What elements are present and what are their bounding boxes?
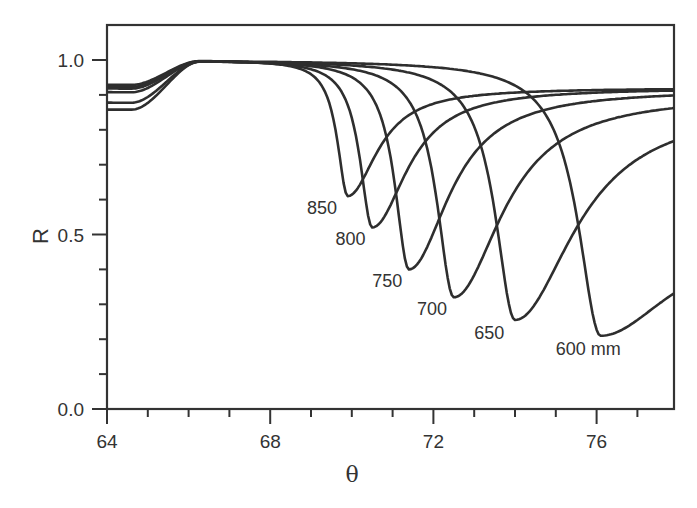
y-axis-title: R	[28, 228, 53, 244]
x-tick-label: 68	[260, 431, 281, 452]
x-tick-label: 72	[423, 431, 444, 452]
curve-label-850: 850	[307, 198, 337, 218]
curve-label-650: 650	[474, 323, 504, 343]
chart: 646872760.00.51.0 850800750700650600 mm …	[0, 0, 697, 508]
x-tick-label: 64	[96, 431, 118, 452]
x-axis-title: θ	[345, 462, 358, 487]
y-tick-label: 0.0	[58, 399, 84, 420]
curve-label-700: 700	[417, 299, 447, 319]
curve-label-600: 600 mm	[556, 339, 621, 359]
curve-800	[107, 61, 674, 227]
y-tick-label: 0.5	[58, 225, 84, 246]
x-tick-label: 76	[586, 431, 607, 452]
reflectance-curves	[107, 61, 674, 336]
curve-label-750: 750	[372, 271, 402, 291]
curve-label-800: 800	[335, 229, 365, 249]
curve-700	[107, 62, 674, 298]
curve-labels: 850800750700650600 mm	[307, 198, 621, 359]
y-tick-label: 1.0	[58, 50, 84, 71]
